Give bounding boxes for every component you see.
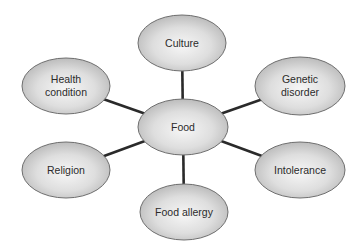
node-genetic-disorder [255,57,345,115]
node-food [138,99,228,155]
node-intolerance [255,142,345,198]
node-ellipses [22,15,345,240]
node-religion [22,142,110,198]
node-health-condition [22,58,110,114]
node-culture [138,15,226,71]
node-food-allergy [140,184,228,240]
food-factors-diagram [0,0,364,249]
